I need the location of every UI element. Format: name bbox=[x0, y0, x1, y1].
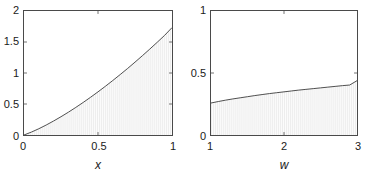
left-ytick-1: 1 bbox=[0, 68, 19, 79]
left-xtick-0: 0 bbox=[13, 141, 33, 152]
right-xtick-2: 2 bbox=[274, 141, 294, 152]
figure-canvas: 2 1.5 1 0.5 0 bbox=[0, 0, 377, 177]
right-shaded-area bbox=[211, 81, 357, 135]
right-plot-area bbox=[210, 10, 358, 136]
right-xaxis-label: w bbox=[264, 158, 304, 172]
left-xtick-0p5: 0.5 bbox=[84, 141, 114, 152]
left-shaded-area bbox=[24, 28, 172, 135]
left-plot-graphics bbox=[24, 11, 172, 135]
left-ytick-2: 2 bbox=[0, 5, 19, 16]
chart-panel-left: 2 1.5 1 0.5 0 bbox=[0, 0, 188, 177]
right-xtick-3: 3 bbox=[348, 141, 368, 152]
left-xtick-1: 1 bbox=[163, 141, 183, 152]
right-plot-graphics bbox=[211, 11, 357, 135]
right-xtick-1: 1 bbox=[200, 141, 220, 152]
left-xaxis-label: x bbox=[78, 158, 118, 172]
left-ytick-1p5: 1.5 bbox=[0, 36, 19, 47]
right-ytick-1: 1 bbox=[188, 5, 206, 16]
left-plot-area bbox=[23, 10, 173, 136]
left-ytick-0p5: 0.5 bbox=[0, 99, 19, 110]
right-ytick-0p5: 0.5 bbox=[188, 68, 206, 79]
chart-panel-right: 1 0.5 0 1 2 bbox=[188, 0, 376, 177]
